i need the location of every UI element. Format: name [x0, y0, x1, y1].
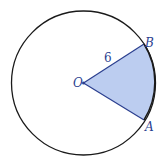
radius-length-label: 6 [104, 51, 112, 65]
circle-sector-diagram: O B A 6 [0, 0, 167, 166]
label-O: O [73, 76, 83, 90]
shaded-sector-AOB [84, 44, 155, 120]
label-B: B [144, 36, 154, 50]
diagram-canvas: O B A 6 [0, 0, 167, 166]
label-A: A [144, 120, 154, 134]
